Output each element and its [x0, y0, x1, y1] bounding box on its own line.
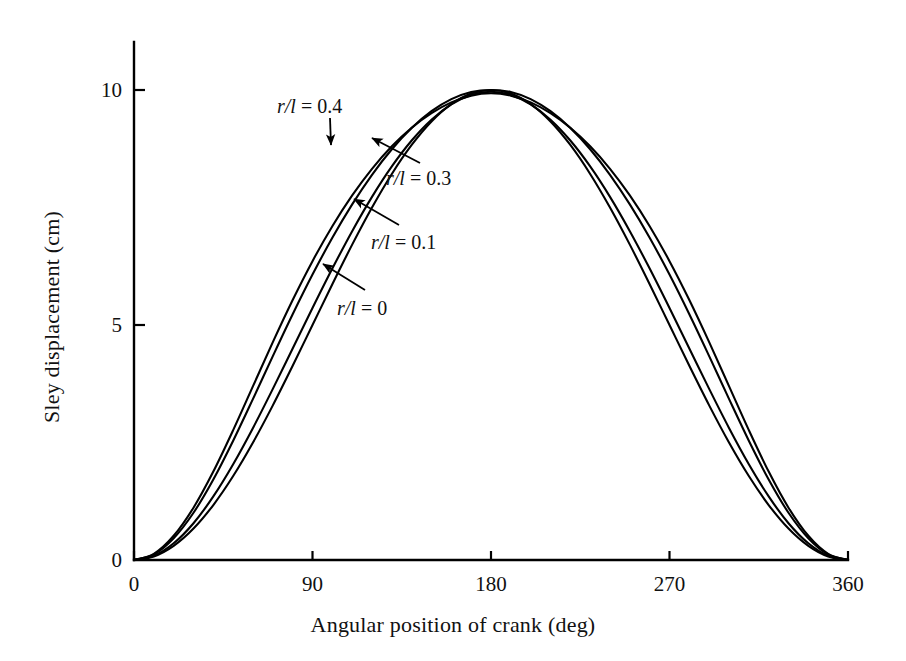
x-tick-label: 270: [654, 574, 686, 595]
x-tick-label: 90: [302, 574, 323, 595]
data-curve: [134, 93, 848, 560]
curve-label-symbol: r/l: [386, 167, 405, 189]
curve-label-ann-04: r/l = 0.4: [277, 96, 342, 116]
curve-label-value: = 0.4: [301, 95, 342, 117]
curve-label-value: = 0: [361, 297, 387, 319]
y-tick-label: 0: [78, 550, 122, 571]
plot-canvas: [0, 0, 906, 661]
data-curves: [134, 90, 848, 560]
data-curve: [134, 92, 848, 560]
x-tick-label: 180: [475, 574, 507, 595]
x-axis-title: Angular position of crank (deg): [0, 612, 906, 638]
curve-label-ann-00: r/l = 0: [337, 298, 387, 318]
y-tick-label: 10: [78, 80, 122, 101]
curve-label-symbol: r/l: [337, 297, 356, 319]
y-axis-title: Sley displacement (cm): [39, 117, 65, 517]
data-curve: [134, 90, 848, 560]
curve-label-ann-03: r/l = 0.3: [386, 168, 451, 188]
x-tick-label: 0: [129, 574, 140, 595]
x-axis-ticks: [134, 551, 848, 560]
curve-label-ann-01: r/l = 0.1: [371, 232, 436, 252]
curve-label-symbol: r/l: [277, 95, 296, 117]
annotation-arrow: [323, 264, 365, 290]
chart-figure: 090180270360 0510 r/l = 0.4r/l = 0.3r/l …: [0, 0, 906, 661]
axes: [134, 42, 848, 560]
annotation-arrow: [354, 199, 399, 225]
curve-label-value: = 0.1: [395, 231, 436, 253]
annotation-arrow: [330, 118, 331, 145]
annotation-arrows: [323, 118, 420, 290]
curve-label-symbol: r/l: [371, 231, 390, 253]
y-axis-ticks: [134, 90, 145, 325]
y-tick-label: 5: [78, 315, 122, 336]
curve-label-value: = 0.3: [410, 167, 451, 189]
data-curve: [134, 90, 848, 560]
x-tick-label: 360: [832, 574, 864, 595]
